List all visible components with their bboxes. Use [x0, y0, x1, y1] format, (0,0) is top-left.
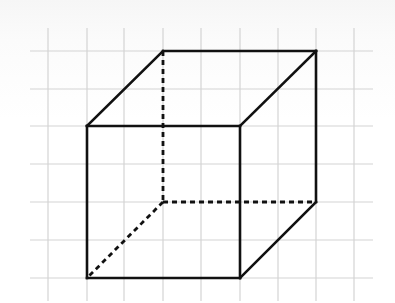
visible-edge: [87, 51, 163, 126]
visible-edge: [240, 202, 316, 278]
cube-diagram: [0, 0, 395, 303]
hidden-edge: [87, 202, 163, 278]
cube-drawing: [0, 0, 395, 303]
visible-edge: [240, 51, 316, 126]
